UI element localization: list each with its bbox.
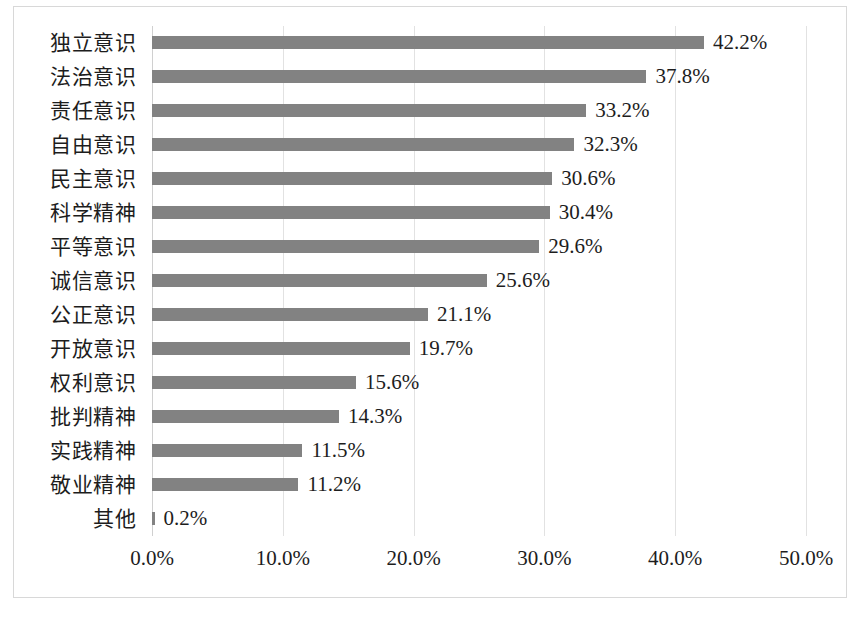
gridline-500 xyxy=(806,26,807,536)
category-label: 独立意识 xyxy=(50,26,136,60)
x-axis-tick-label: 0.0% xyxy=(130,546,174,571)
bar-chart-figure: 独立意识42.2%法治意识37.8%责任意识33.2%自由意识32.3%民主意识… xyxy=(0,0,866,618)
value-label: 42.2% xyxy=(713,26,767,60)
bar-row: 诚信意识25.6% xyxy=(152,264,806,298)
x-axis-tick-label: 50.0% xyxy=(779,546,833,571)
plot-area: 独立意识42.2%法治意识37.8%责任意识33.2%自由意识32.3%民主意识… xyxy=(152,26,806,536)
bar-row: 其他0.2% xyxy=(152,502,806,536)
bar[interactable] xyxy=(152,240,539,253)
category-label: 平等意识 xyxy=(50,230,136,264)
value-label: 15.6% xyxy=(365,366,419,400)
category-label: 诚信意识 xyxy=(50,264,136,298)
x-axis-tick-label: 20.0% xyxy=(386,546,440,571)
category-label: 科学精神 xyxy=(50,196,136,230)
value-label: 30.4% xyxy=(559,196,613,230)
bar[interactable] xyxy=(152,172,552,185)
category-label: 其他 xyxy=(93,502,136,536)
bar-row: 科学精神30.4% xyxy=(152,196,806,230)
category-label: 公正意识 xyxy=(50,298,136,332)
category-label: 责任意识 xyxy=(50,94,136,128)
bar[interactable] xyxy=(152,274,487,287)
bar-row: 开放意识19.7% xyxy=(152,332,806,366)
bar[interactable] xyxy=(152,206,550,219)
bar-row: 实践精神11.5% xyxy=(152,434,806,468)
value-label: 32.3% xyxy=(583,128,637,162)
bar[interactable] xyxy=(152,444,302,457)
bar[interactable] xyxy=(152,308,428,321)
bar-row: 敬业精神11.2% xyxy=(152,468,806,502)
value-label: 11.5% xyxy=(311,434,364,468)
value-label: 14.3% xyxy=(348,400,402,434)
bar-row: 公正意识21.1% xyxy=(152,298,806,332)
value-label: 25.6% xyxy=(496,264,550,298)
bar[interactable] xyxy=(152,70,646,83)
bar[interactable] xyxy=(152,478,298,491)
category-label: 敬业精神 xyxy=(50,468,136,502)
bar-rows: 独立意识42.2%法治意识37.8%责任意识33.2%自由意识32.3%民主意识… xyxy=(152,26,806,536)
value-label: 19.7% xyxy=(419,332,473,366)
bar-row: 民主意识30.6% xyxy=(152,162,806,196)
bar[interactable] xyxy=(152,104,586,117)
bar[interactable] xyxy=(152,376,356,389)
value-label: 30.6% xyxy=(561,162,615,196)
bar[interactable] xyxy=(152,410,339,423)
x-axis: 0.0%10.0%20.0%30.0%40.0%50.0% xyxy=(152,540,806,580)
value-label: 37.8% xyxy=(655,60,709,94)
bar[interactable] xyxy=(152,512,155,525)
value-label: 11.2% xyxy=(307,468,360,502)
bar-row: 法治意识37.8% xyxy=(152,60,806,94)
bar-row: 批判精神14.3% xyxy=(152,400,806,434)
value-label: 0.2% xyxy=(164,502,208,536)
bar-row: 平等意识29.6% xyxy=(152,230,806,264)
bar[interactable] xyxy=(152,342,410,355)
category-label: 自由意识 xyxy=(50,128,136,162)
value-label: 21.1% xyxy=(437,298,491,332)
category-label: 法治意识 xyxy=(50,60,136,94)
bar-row: 自由意识32.3% xyxy=(152,128,806,162)
bar[interactable] xyxy=(152,36,704,49)
x-axis-tick-label: 10.0% xyxy=(256,546,310,571)
bar[interactable] xyxy=(152,138,574,151)
category-label: 民主意识 xyxy=(50,162,136,196)
category-label: 权利意识 xyxy=(50,366,136,400)
bar-row: 责任意识33.2% xyxy=(152,94,806,128)
x-axis-tick-label: 40.0% xyxy=(648,546,702,571)
bar-row: 独立意识42.2% xyxy=(152,26,806,60)
category-label: 开放意识 xyxy=(50,332,136,366)
x-axis-tick-label: 30.0% xyxy=(517,546,571,571)
category-label: 批判精神 xyxy=(50,400,136,434)
value-label: 33.2% xyxy=(595,94,649,128)
bar-row: 权利意识15.6% xyxy=(152,366,806,400)
category-label: 实践精神 xyxy=(50,434,136,468)
value-label: 29.6% xyxy=(548,230,602,264)
